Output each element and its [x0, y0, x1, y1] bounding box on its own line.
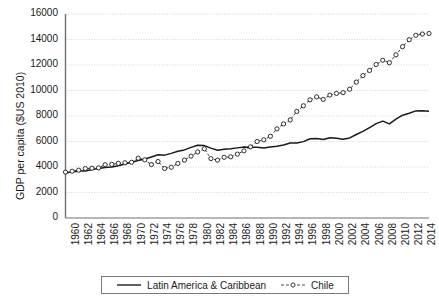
data-point-marker — [229, 155, 233, 159]
x-tick-label: 2008 — [387, 223, 398, 253]
x-tick-label: 2012 — [413, 223, 424, 253]
x-tick-label: 1972 — [149, 223, 160, 253]
data-point-marker — [222, 155, 226, 159]
data-point-marker — [308, 98, 312, 102]
x-tick-label: 1980 — [202, 223, 213, 253]
x-tick-label: 1992 — [281, 223, 292, 253]
plot-area — [0, 0, 439, 303]
data-point-marker — [420, 32, 424, 36]
data-point-marker — [235, 152, 239, 156]
x-tick-label: 1962 — [83, 223, 94, 253]
data-point-marker — [70, 169, 74, 173]
y-tick-label: 0 — [14, 211, 58, 222]
data-point-marker — [334, 91, 338, 95]
y-tick-label: 2000 — [14, 186, 58, 197]
data-point-marker — [427, 31, 431, 35]
data-point-marker — [367, 68, 371, 72]
y-tick-label: 12000 — [14, 58, 58, 69]
data-point-marker — [414, 33, 418, 37]
data-point-marker — [182, 158, 186, 162]
x-tick-label: 1986 — [241, 223, 252, 253]
x-tick-label: 1964 — [96, 223, 107, 253]
data-point-marker — [301, 104, 305, 108]
y-tick-label: 6000 — [14, 135, 58, 146]
x-tick-label: 1970 — [136, 223, 147, 253]
data-point-marker — [163, 166, 167, 170]
x-tick-label: 1974 — [162, 223, 173, 253]
data-point-marker — [123, 161, 127, 165]
x-tick-label: 2010 — [400, 223, 411, 253]
legend-item-latin-america-caribbean: Latin America & Caribbean — [116, 280, 266, 291]
data-point-marker — [129, 160, 133, 164]
y-tick-label: 8000 — [14, 109, 58, 120]
axes — [66, 14, 430, 218]
x-tick-label: 2014 — [426, 223, 437, 253]
x-tick-label: 1978 — [188, 223, 199, 253]
legend-label-latin-america-caribbean: Latin America & Caribbean — [147, 280, 266, 291]
data-point-marker — [196, 150, 200, 154]
data-point-marker — [169, 165, 173, 169]
x-tick-label: 1976 — [175, 223, 186, 253]
x-tick-label: 1990 — [268, 223, 279, 253]
data-point-marker — [77, 168, 81, 172]
data-point-marker — [387, 61, 391, 65]
series-lines — [63, 31, 431, 174]
x-tick-label: 1960 — [70, 223, 81, 253]
data-point-marker — [176, 161, 180, 165]
data-point-marker — [116, 161, 120, 165]
x-tick-label: 1982 — [215, 223, 226, 253]
data-point-marker — [242, 149, 246, 153]
data-point-marker — [63, 170, 67, 174]
y-tick-label: 4000 — [14, 160, 58, 171]
x-tick-label: 1996 — [307, 223, 318, 253]
data-point-marker — [209, 156, 213, 160]
data-point-marker — [149, 162, 153, 166]
x-tick-label: 2002 — [347, 223, 358, 253]
data-point-marker — [268, 134, 272, 138]
data-point-marker — [295, 109, 299, 113]
data-point-marker — [321, 97, 325, 101]
x-tick-label: 1994 — [294, 223, 305, 253]
data-point-marker — [255, 139, 259, 143]
dashed-marker-line-icon — [280, 280, 306, 290]
x-tick-label: 2006 — [374, 223, 385, 253]
data-point-marker — [328, 93, 332, 97]
data-point-marker — [374, 62, 378, 66]
data-point-marker — [288, 118, 292, 122]
data-point-marker — [248, 145, 252, 149]
x-tick-label: 1988 — [255, 223, 266, 253]
data-point-marker — [262, 138, 266, 142]
data-point-marker — [400, 45, 404, 49]
data-point-marker — [202, 147, 206, 151]
data-point-marker — [136, 156, 140, 160]
data-point-marker — [275, 127, 279, 131]
data-point-marker — [103, 163, 107, 167]
solid-line-icon — [116, 280, 142, 290]
data-point-marker — [354, 80, 358, 84]
x-tick-label: 1968 — [122, 223, 133, 253]
legend-item-chile: Chile — [280, 280, 334, 291]
data-point-marker — [394, 53, 398, 57]
data-point-marker — [348, 87, 352, 91]
data-point-marker — [282, 122, 286, 126]
x-tick-label: 1998 — [321, 223, 332, 253]
x-tick-label: 2004 — [360, 223, 371, 253]
data-point-marker — [381, 58, 385, 62]
data-point-marker — [83, 166, 87, 170]
x-tick-label: 1984 — [228, 223, 239, 253]
y-tick-label: 16000 — [14, 7, 58, 18]
data-point-marker — [315, 95, 319, 99]
y-tick-label: 10000 — [14, 84, 58, 95]
gdp-per-capita-line-chart: GDP per capita ($US 2010) 02000400060008… — [0, 0, 439, 303]
y-tick-label: 14000 — [14, 33, 58, 44]
data-point-marker — [407, 38, 411, 42]
data-point-marker — [156, 159, 160, 163]
x-tick-label: 1966 — [109, 223, 120, 253]
data-point-marker — [189, 154, 193, 158]
data-point-marker — [96, 166, 100, 170]
data-point-marker — [341, 91, 345, 95]
data-point-marker — [110, 162, 114, 166]
data-point-marker — [215, 158, 219, 162]
x-tick-label: 2000 — [334, 223, 345, 253]
data-point-marker — [143, 158, 147, 162]
